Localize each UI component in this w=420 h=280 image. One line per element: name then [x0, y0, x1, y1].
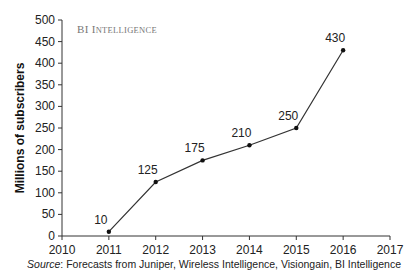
- data-point: [247, 143, 251, 147]
- brand-rest: INTELLIGENCE: [92, 23, 157, 35]
- data-label: 175: [185, 141, 205, 155]
- y-tick-label: 400: [35, 56, 55, 70]
- x-tick-label: 2010: [49, 243, 76, 257]
- data-label: 250: [278, 109, 298, 123]
- y-tick-label: 100: [35, 186, 55, 200]
- x-tick-label: 2011: [96, 243, 122, 257]
- data-label: 210: [231, 126, 251, 140]
- data-label: 430: [325, 31, 345, 45]
- series-line: [109, 50, 343, 231]
- data-label: 125: [138, 163, 158, 177]
- source-note: Source: Forecasts from Juniper, Wireless…: [27, 258, 401, 270]
- brand-smallcaps: NTELLIGENCE: [96, 25, 157, 35]
- y-tick-label: 350: [35, 78, 55, 92]
- x-tick-label: 2015: [283, 243, 310, 257]
- x-tick-label: 2012: [142, 243, 169, 257]
- data-label: 10: [94, 213, 108, 227]
- data-point: [341, 48, 345, 52]
- y-tick-label: 450: [35, 35, 55, 49]
- y-tick-label: 250: [35, 121, 55, 135]
- y-tick-label: 0: [48, 229, 55, 243]
- x-tick-label: 2014: [236, 243, 263, 257]
- x-tick-label: 2017: [377, 243, 404, 257]
- source-prefix: Source: [27, 258, 60, 270]
- brand-label: BI INTELLIGENCE: [77, 23, 157, 35]
- y-tick-label: 150: [35, 164, 55, 178]
- y-tick-label: 500: [35, 13, 55, 27]
- data-point: [294, 126, 298, 130]
- y-tick-label: 50: [42, 207, 56, 221]
- y-tick-label: 300: [35, 99, 55, 113]
- data-point: [154, 180, 158, 184]
- y-axis-label: Millions of subscribers: [13, 62, 27, 193]
- y-tick-label: 200: [35, 143, 55, 157]
- brand-first: BI: [77, 23, 92, 35]
- x-tick-label: 2016: [330, 243, 357, 257]
- data-point: [107, 229, 111, 233]
- line-chart: 0501001502002503003504004505002010201120…: [0, 0, 420, 280]
- data-point: [200, 158, 204, 162]
- source-text: : Forecasts from Juniper, Wireless Intel…: [60, 258, 401, 270]
- x-tick-label: 2013: [189, 243, 216, 257]
